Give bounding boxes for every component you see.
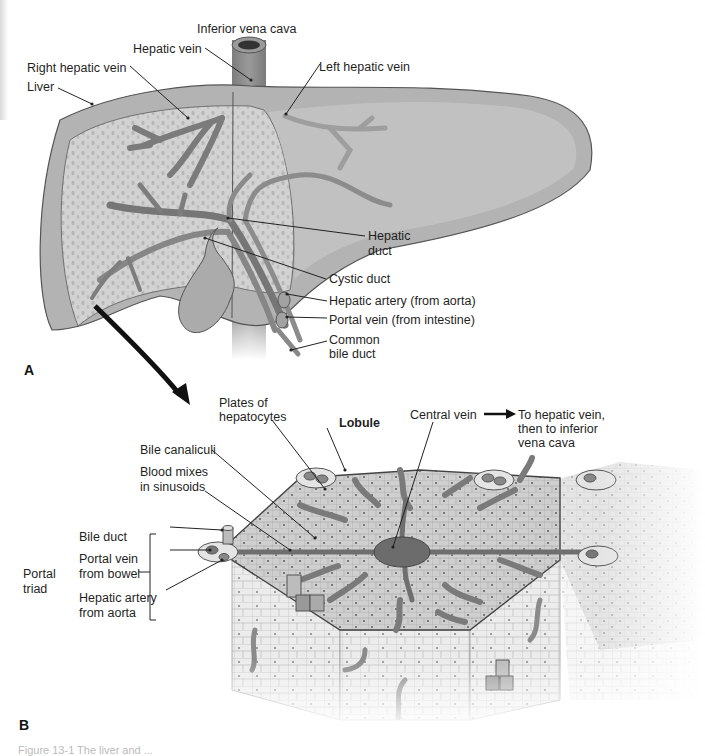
label-cystic-duct: Cystic duct: [329, 272, 390, 287]
label-portal-triad-line2: triad: [23, 582, 47, 597]
label-central-vein: Central vein: [410, 408, 477, 423]
label-hepatic-artery-line1: Hepatic artery: [79, 591, 157, 606]
central-vein-shape: [374, 537, 430, 567]
label-bile-canaliculi: Bile canaliculi: [140, 443, 216, 458]
label-to-hepatic-line3: vena cava: [518, 436, 575, 451]
label-plates-line1: Plates of: [219, 396, 268, 411]
label-plates-line2: hepatocytes: [219, 410, 286, 425]
label-portal-vein: Portal vein (from intestine): [329, 313, 475, 328]
label-left-hepatic-vein: Left hepatic vein: [319, 60, 410, 75]
label-hepatic-vein: Hepatic vein: [133, 42, 202, 57]
label-to-hepatic-line1: To hepatic vein,: [518, 408, 605, 423]
label-blood-mixes-line2: in sinusoids: [140, 480, 205, 495]
label-common-bile-duct-line1: Common: [329, 333, 380, 348]
label-to-hepatic-line2: then to inferior: [518, 422, 598, 437]
label-hepatic-artery: Hepatic artery (from aorta): [329, 294, 476, 309]
lobule-block: [198, 440, 705, 730]
panel-letter-b: B: [19, 717, 29, 733]
label-common-bile-duct-line2: bile duct: [329, 347, 376, 362]
label-portal-vein-line1: Portal vein: [79, 552, 138, 567]
label-portal-vein-line2: from bowel: [79, 567, 140, 582]
label-liver: Liver: [27, 80, 54, 95]
label-inferior-vena-cava: Inferior vena cava: [197, 22, 296, 37]
label-right-hepatic-vein: Right hepatic vein: [27, 61, 126, 76]
label-bile-duct: Bile duct: [79, 530, 127, 545]
zoom-arrow: [95, 306, 180, 395]
portal-vein-end: [276, 312, 288, 328]
label-lobule: Lobule: [339, 416, 380, 431]
label-hepatic-duct-line1: Hepatic: [368, 229, 410, 244]
label-portal-triad-line1: Portal: [23, 567, 56, 582]
figure-caption: Figure 13-1 The liver and ...: [18, 744, 153, 756]
label-hepatic-duct-line2: duct: [368, 244, 392, 259]
label-blood-mixes-line1: Blood mixes: [140, 465, 208, 480]
label-hepatic-artery-line2: from aorta: [79, 606, 136, 621]
panel-letter-a: A: [24, 362, 34, 378]
